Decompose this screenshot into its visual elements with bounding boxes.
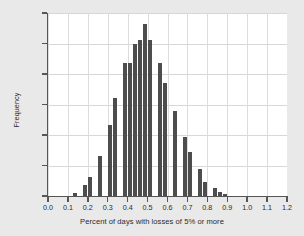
plot-inner — [48, 13, 287, 196]
y-tick-mark — [42, 12, 47, 13]
x-tick-mark — [127, 197, 128, 202]
y-tick-mark — [42, 104, 47, 105]
gridline-vertical — [88, 13, 89, 196]
gridline-vertical — [207, 13, 208, 196]
x-tick-mark — [107, 197, 108, 202]
x-tick-mark — [187, 197, 188, 202]
histogram-bar — [83, 185, 87, 196]
gridline-vertical — [168, 13, 169, 196]
y-axis-title: Frequency — [10, 15, 24, 205]
histogram-bar — [133, 44, 137, 197]
x-tick-mark — [286, 197, 287, 202]
histogram-bar — [73, 193, 77, 196]
histogram-bar — [163, 83, 167, 196]
x-tick-mark — [147, 197, 148, 202]
plot-area — [48, 13, 287, 196]
x-tick-mark — [47, 197, 48, 202]
histogram-bar — [148, 40, 152, 196]
x-tick-mark — [227, 197, 228, 202]
x-tick-mark — [246, 197, 247, 202]
histogram-bar — [128, 63, 132, 196]
x-tick-label: 1.2 — [272, 203, 302, 212]
histogram-bar — [143, 24, 147, 196]
gridline-vertical — [68, 13, 69, 196]
gridline-vertical — [267, 13, 268, 196]
histogram-bar — [138, 40, 142, 196]
x-axis-title: Percent of days with losses of 5% or mor… — [0, 217, 304, 226]
y-tick-mark — [42, 43, 47, 44]
histogram-bar — [108, 125, 112, 196]
histogram-bar — [213, 188, 217, 196]
histogram-bar — [223, 194, 227, 196]
y-tick-mark — [42, 165, 47, 166]
histogram-bar — [98, 156, 102, 196]
x-tick-mark — [266, 197, 267, 202]
histogram-bar — [88, 177, 92, 196]
histogram-bar — [188, 152, 192, 196]
histogram-bar — [183, 137, 187, 196]
histogram-bar — [113, 98, 117, 196]
histogram-figure: Frequency 020040060080010001200 0.00.10.… — [0, 0, 304, 236]
x-tick-mark — [207, 197, 208, 202]
histogram-bar — [218, 192, 222, 196]
histogram-bar — [173, 111, 177, 196]
histogram-bar — [123, 63, 127, 196]
x-tick-mark — [67, 197, 68, 202]
gridline-vertical — [247, 13, 248, 196]
y-tick-mark — [42, 134, 47, 135]
x-tick-mark — [167, 197, 168, 202]
histogram-bar — [198, 169, 202, 196]
y-tick-mark — [42, 195, 47, 196]
y-tick-mark — [42, 73, 47, 74]
gridline-vertical — [48, 13, 49, 196]
gridline-vertical — [227, 13, 228, 196]
x-tick-mark — [87, 197, 88, 202]
histogram-bar — [203, 182, 207, 196]
histogram-bar — [158, 63, 162, 196]
